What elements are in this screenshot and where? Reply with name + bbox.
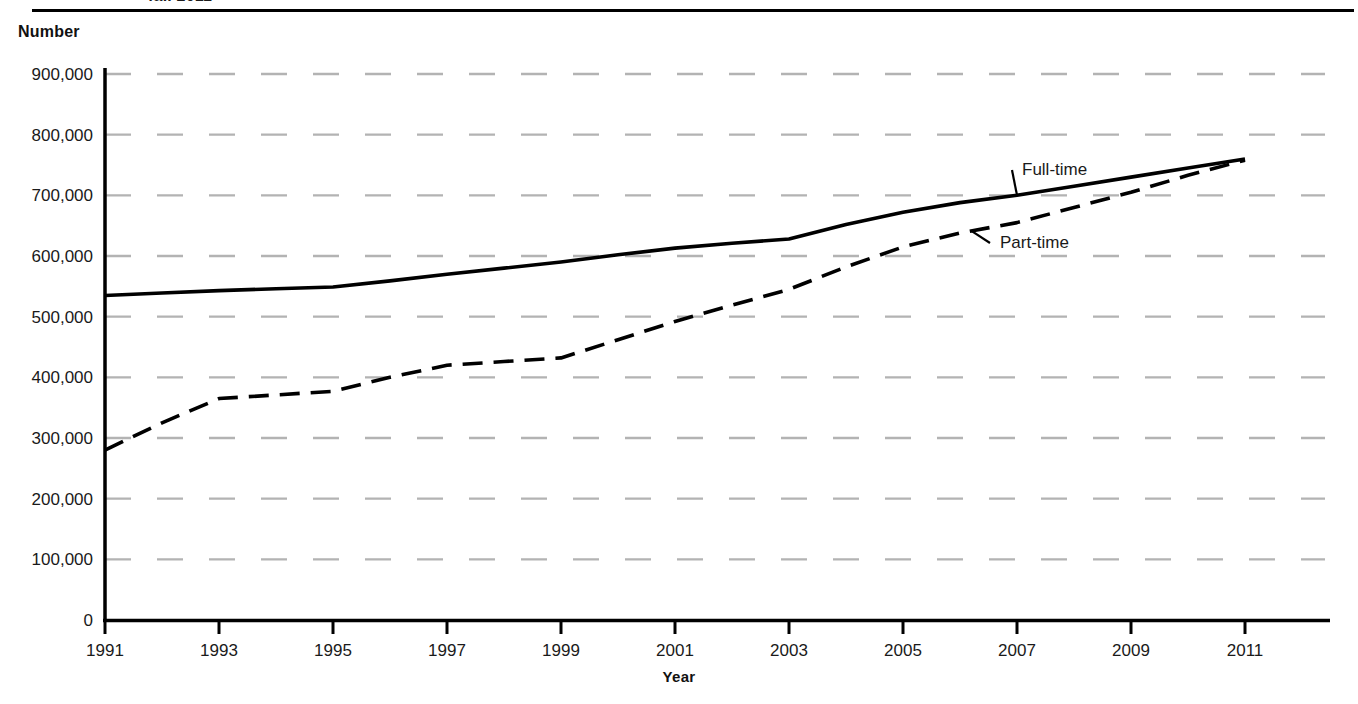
y-tick-label: 200,000 <box>32 490 93 509</box>
x-tick-label: 1997 <box>428 641 466 660</box>
x-tick-label: 2001 <box>656 641 694 660</box>
figure-container: fall 2011 Number 0100,000200,000300,0004… <box>0 0 1358 704</box>
x-tick-labels-group: 1991199319951997199920012003200520072009… <box>86 641 1263 660</box>
y-tick-label: 900,000 <box>32 65 93 84</box>
x-tick-label: 1999 <box>542 641 580 660</box>
y-tick-labels-group: 0100,000200,000300,000400,000500,000600,… <box>32 65 93 630</box>
x-tick-label: 2009 <box>1112 641 1150 660</box>
x-tick-label: 2007 <box>998 641 1036 660</box>
series-line-part-time <box>105 160 1245 450</box>
y-tick-label: 600,000 <box>32 247 93 266</box>
gridlines-group <box>105 74 1325 559</box>
y-tick-label: 700,000 <box>32 186 93 205</box>
line-chart: 0100,000200,000300,000400,000500,000600,… <box>0 0 1358 704</box>
y-tick-label: 800,000 <box>32 126 93 145</box>
y-tick-label: 100,000 <box>32 550 93 569</box>
y-tick-label: 300,000 <box>32 429 93 448</box>
x-tick-label: 2011 <box>1227 641 1264 660</box>
y-tick-label: 500,000 <box>32 308 93 327</box>
x-tick-label: 2005 <box>884 641 922 660</box>
x-tick-label: 2003 <box>770 641 808 660</box>
x-tick-label: 1993 <box>200 641 238 660</box>
y-tick-label: 400,000 <box>32 368 93 387</box>
series-annotation-full-time: Full-time <box>1022 160 1087 179</box>
x-tick-label: 1995 <box>314 641 352 660</box>
annotation-leader-line <box>1012 170 1017 195</box>
y-tick-label: 0 <box>84 611 93 630</box>
x-tick-label: 1991 <box>86 641 124 660</box>
x-axis-title: Year <box>0 668 1358 685</box>
series-annotation-part-time: Part-time <box>1000 233 1069 252</box>
series-lines-group <box>105 159 1245 450</box>
annotation-leader-line <box>971 231 990 243</box>
series-line-full-time <box>105 159 1245 296</box>
